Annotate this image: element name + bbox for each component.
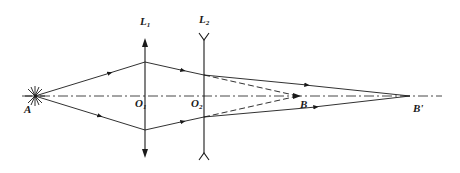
- label-L1: L1: [139, 15, 150, 29]
- optical-ray-diagram: A L1 L2 O1 O2 B B': [0, 0, 460, 173]
- label-B: B: [299, 98, 307, 110]
- label-B-prime: B': [412, 102, 423, 114]
- label-O2: O2: [191, 97, 203, 111]
- label-A: A: [23, 103, 31, 115]
- diverging-lens-L2: [199, 33, 209, 160]
- label-L2: L2: [198, 13, 210, 27]
